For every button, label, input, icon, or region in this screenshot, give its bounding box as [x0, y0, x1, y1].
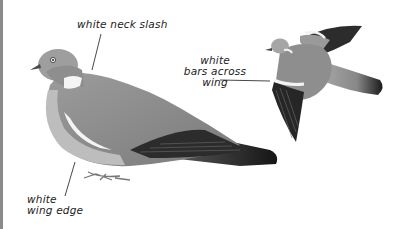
label-line: wing edge: [27, 205, 83, 216]
feet: [84, 172, 130, 180]
illustration-frame: white neck slash white bars across wing …: [0, 0, 409, 229]
label-line: wing: [179, 77, 251, 88]
leader-line-edge: [65, 162, 75, 196]
label-white-neck-slash: white neck slash: [77, 19, 168, 30]
leader-line-neck: [92, 34, 101, 70]
label-white-bars-across-wing: white bars across wing: [179, 55, 251, 88]
flying-head: [271, 39, 289, 54]
flying-pigeon: [265, 26, 383, 142]
label-white-wing-edge: white wing edge: [27, 194, 83, 216]
near-wing: [272, 82, 304, 142]
